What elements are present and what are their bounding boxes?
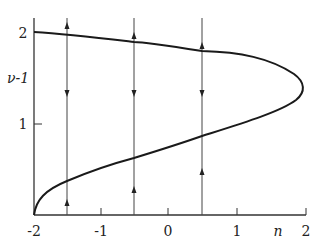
x-tick-label: -1	[94, 223, 108, 239]
flow-line-n-minus-0.5	[132, 18, 137, 215]
flow-line-n-minus-1.5	[65, 18, 70, 215]
arrow-down-icon	[200, 90, 205, 97]
arrow-up-icon	[200, 168, 205, 175]
arrow-down-icon	[65, 90, 70, 97]
x-tick-label: 2	[302, 223, 311, 239]
x-tick-label: 0	[164, 223, 173, 239]
curve	[34, 32, 303, 215]
y-axis-label: ν-1	[7, 70, 29, 86]
x-tick-label: -2	[27, 223, 41, 239]
arrow-down-icon	[132, 90, 137, 97]
arrow-up-icon	[132, 32, 137, 39]
arrow-up-icon	[200, 42, 205, 49]
x-axis-label: n	[273, 223, 282, 239]
flow-line-n-0.5	[200, 18, 205, 215]
y-tick-label: 1	[19, 116, 28, 132]
arrow-up-icon	[65, 199, 70, 206]
arrow-up-icon	[132, 186, 137, 193]
y-tick-label: 2	[19, 25, 28, 41]
x-tick-label: 1	[233, 223, 242, 239]
phase-diagram: -2 -1 0 1 2 1 2 n ν-1	[0, 0, 322, 243]
arrow-up-icon	[65, 22, 70, 29]
